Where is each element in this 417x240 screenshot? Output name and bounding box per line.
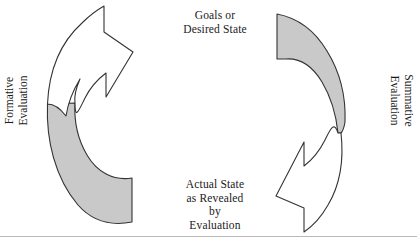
formative-arrow-tail-shape: [47, 103, 132, 223]
label-summative-evaluation: Summative Evaluation: [388, 49, 415, 153]
summative-arrow-head-shape: [276, 127, 342, 232]
bottom-divider: [0, 236, 417, 237]
summative-arrow-tail-shape: [277, 14, 345, 133]
label-formative-evaluation: Formative Evaluation: [3, 49, 30, 153]
formative-arrow-head-shape: [48, 6, 134, 116]
evaluation-cycle-diagram: Goals or Desired State Actual State as R…: [0, 0, 417, 240]
label-goals-or-desired-state: Goals or Desired State: [152, 9, 278, 36]
label-actual-state-as-revealed-by-evaluation: Actual State as Revealed by Evaluation: [152, 178, 278, 232]
